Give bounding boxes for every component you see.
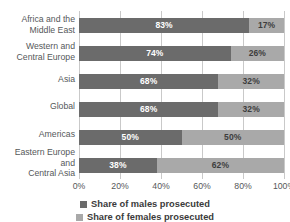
legend-item[interactable]: Share of females prosecuted [76, 212, 214, 222]
tick-label: 40% [152, 181, 169, 191]
stacked-bar-chart: Africa and the Middle EastWestern and Ce… [0, 0, 290, 222]
category-label: Asia [58, 74, 75, 85]
category-label-cell: Western and Central Europe [0, 38, 75, 65]
bar-value-label: 26% [249, 48, 266, 58]
plot-area: 83%17%74%26%68%32%68%32%50%50%38%62% [79, 11, 284, 179]
bar-value-label: 83% [155, 20, 172, 30]
value-axis-tick-labels: 0%20%40%60%80%100% [79, 181, 284, 195]
stacked-bar: 83%17% [79, 18, 284, 33]
bar-value-label: 50% [122, 132, 139, 142]
category-label: Western and Central Europe [17, 41, 75, 62]
bar-value-label: 17% [258, 20, 275, 30]
bar-segment-males: 68% [79, 74, 218, 89]
category-axis-labels: Africa and the Middle EastWestern and Ce… [0, 11, 75, 179]
legend-swatch-icon [76, 214, 83, 221]
gridline [284, 11, 285, 179]
legend-label: Share of females prosecuted [87, 212, 214, 222]
bar-segment-females: 62% [157, 158, 284, 173]
bar-segment-females: 17% [249, 18, 284, 33]
bar-row: 50%50% [79, 123, 284, 151]
bar-value-label: 68% [140, 104, 157, 114]
category-label: Global [50, 101, 75, 112]
bar-segment-females: 32% [218, 102, 284, 117]
tick-label: 80% [234, 181, 251, 191]
tick-label: 60% [193, 181, 210, 191]
bar-row: 83%17% [79, 11, 284, 39]
bar-segment-females: 50% [182, 130, 285, 145]
stacked-bar: 50%50% [79, 130, 284, 145]
bar-row: 74%26% [79, 39, 284, 67]
bar-row: 68%32% [79, 67, 284, 95]
category-label-cell: Eastern Europe and Central Asia [0, 147, 75, 179]
tick-label: 20% [111, 181, 128, 191]
bar-segment-males: 50% [79, 130, 182, 145]
stacked-bar: 68%32% [79, 74, 284, 89]
category-label-cell: Global [0, 93, 75, 120]
bar-row: 38%62% [79, 151, 284, 179]
bar-value-label: 38% [109, 160, 126, 170]
stacked-bar: 38%62% [79, 158, 284, 173]
bar-value-label: 50% [224, 132, 241, 142]
bar-value-label: 62% [212, 160, 229, 170]
bar-segment-males: 74% [79, 46, 231, 61]
tick-label: 100% [273, 181, 290, 191]
bar-segment-males: 83% [79, 18, 249, 33]
legend-label: Share of males prosecuted [91, 199, 210, 209]
bar-segment-females: 32% [218, 74, 284, 89]
chart-legend: Share of males prosecutedShare of female… [0, 199, 290, 222]
bar-segment-males: 38% [79, 158, 157, 173]
bar-value-label: 32% [243, 104, 260, 114]
legend-item[interactable]: Share of males prosecuted [80, 199, 210, 209]
bar-row: 68%32% [79, 95, 284, 123]
bar-value-label: 68% [140, 76, 157, 86]
bar-value-label: 74% [146, 48, 163, 58]
bar-rows: 83%17%74%26%68%32%68%32%50%50%38%62% [79, 11, 284, 179]
category-label-cell: Africa and the Middle East [0, 11, 75, 38]
stacked-bar: 74%26% [79, 46, 284, 61]
category-label: Americas [39, 129, 75, 140]
stacked-bar: 68%32% [79, 102, 284, 117]
category-label: Eastern Europe and Central Asia [0, 147, 75, 179]
tick-label: 0% [73, 181, 86, 191]
category-label: Africa and the Middle East [21, 14, 75, 35]
bar-segment-females: 26% [231, 46, 284, 61]
category-label-cell: Americas [0, 120, 75, 147]
category-label-cell: Asia [0, 66, 75, 93]
bar-value-label: 32% [243, 76, 260, 86]
legend-swatch-icon [80, 201, 87, 208]
bar-segment-males: 68% [79, 102, 218, 117]
